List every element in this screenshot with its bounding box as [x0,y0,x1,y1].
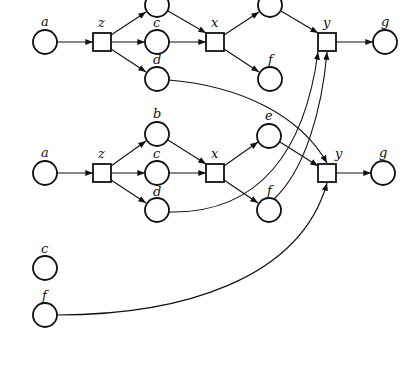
place-a [33,30,57,54]
lower-net: a z b c d x e f y g [33,106,395,222]
arc-upper-d-to-lower-y [169,80,327,163]
upper-net: a z c d x f y g [33,0,397,91]
place-c [145,30,169,54]
place-f [257,198,281,222]
place-f [258,67,282,91]
place-f [33,303,57,327]
arc-e-y [281,11,318,33]
label-x: x [211,146,219,161]
place-b [145,122,169,146]
label-b: b [153,106,161,121]
place-c [145,161,169,185]
arc-z-b [111,12,146,35]
arc-x-f [224,49,259,72]
label-z: z [97,146,105,161]
place-e [258,0,282,17]
arc-z-b [111,141,146,166]
label-z: z [97,15,105,30]
label-a: a [41,14,49,29]
label-g: g [379,145,387,160]
label-f: f [267,52,275,67]
transition-z [93,164,111,182]
transition-y [318,33,336,51]
arc-b-x [168,11,206,33]
arc-lower-d-to-upper-y [169,52,318,212]
label-y: y [322,15,331,30]
transition-y [318,164,336,182]
arc-x-e [224,12,259,35]
label-d: d [153,184,161,199]
label-c: c [153,146,161,161]
arc-b-x [168,140,206,164]
place-d [145,67,169,91]
arc-x-f [224,180,258,203]
label-d: d [153,52,161,67]
place-g [371,161,395,185]
transition-x [206,164,224,182]
place-a [33,161,57,185]
label-f: f [41,288,49,303]
isolated-places: c f [33,241,57,327]
label-f: f [266,183,274,198]
place-c [33,256,57,280]
cross-arcs [57,52,327,315]
label-c: c [41,241,49,256]
place-g [373,30,397,54]
label-g: g [381,14,389,29]
arc-z-d [111,180,146,203]
label-y: y [334,146,343,161]
transition-z [93,33,111,51]
arc-e-y [280,142,318,166]
place-d [145,198,169,222]
label-c: c [153,15,161,30]
petri-net-diagram: a z c d x f y g a z b c d x e [0,0,418,371]
arc-isolated-f-to-lower-y [57,183,327,315]
transition-x [206,33,224,51]
arc-z-d [111,49,146,72]
label-x: x [211,15,219,30]
place-e [257,124,281,148]
label-a: a [41,145,49,160]
arc-x-e [224,142,258,166]
